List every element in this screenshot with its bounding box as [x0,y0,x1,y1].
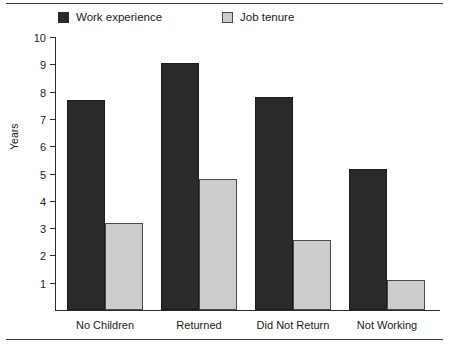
bar-work-experience [161,63,199,310]
y-axis-tick: 6 [50,146,55,147]
x-axis-line [55,310,440,311]
y-axis-tick-label: 8 [40,87,46,98]
y-axis-tick: 4 [50,201,55,202]
y-axis-tick-label: 2 [40,251,46,262]
y-axis-tick: 3 [50,228,55,229]
plot-area: 12345678910 No ChildrenReturnedDid Not R… [55,37,440,310]
x-axis-category-label: Did Not Return [257,319,330,331]
bar-job-tenure [199,179,237,310]
bottom-divider-rule [6,339,443,340]
dark-square-icon [58,12,69,23]
y-axis-tick: 1 [50,283,55,284]
y-axis-tick-label: 4 [40,196,46,207]
y-axis-tick: 2 [50,255,55,256]
bar-work-experience [255,97,293,310]
y-axis-tick-label: 7 [40,114,46,125]
x-axis-category-label: Returned [176,319,221,331]
y-axis-tick: 7 [50,119,55,120]
chart-legend: Work experience Job tenure [0,11,449,31]
y-axis-tick-label: 6 [40,142,46,153]
legend-item-work-experience: Work experience [58,11,162,23]
top-divider-rule [6,3,443,4]
y-axis-tick: 8 [50,92,55,93]
light-square-icon [222,12,233,23]
y-axis-tick-label: 10 [34,33,46,44]
y-axis-tick-label: 3 [40,224,46,235]
bar-job-tenure [387,280,425,310]
bar-chart-figure: Work experience Job tenure Years 1234567… [0,0,449,348]
legend-item-job-tenure: Job tenure [222,11,294,23]
bar-job-tenure [105,223,143,310]
y-axis-tick: 10 [50,37,55,38]
y-axis-tick-label: 1 [40,278,46,289]
bar-job-tenure [293,240,331,310]
y-axis-tick: 5 [50,174,55,175]
y-axis-line [55,37,56,310]
bar-work-experience [67,100,105,310]
y-axis-tick: 9 [50,64,55,65]
y-axis-tick-label: 5 [40,169,46,180]
legend-label-job-tenure: Job tenure [240,11,294,23]
bar-work-experience [349,169,387,310]
y-axis-title: Years [8,124,20,150]
x-axis-category-label: No Children [76,319,134,331]
y-axis-tick-label: 9 [40,60,46,71]
legend-label-work-experience: Work experience [76,11,162,23]
x-axis-category-label: Not Working [357,319,417,331]
